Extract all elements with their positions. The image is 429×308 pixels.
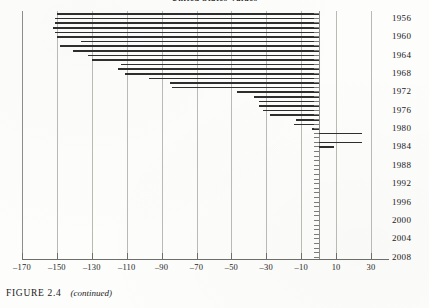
gridline--70 <box>197 11 198 259</box>
minor-year-tick <box>314 59 319 60</box>
gridline--170 <box>22 11 23 259</box>
minor-year-tick <box>314 73 319 74</box>
minor-year-tick <box>314 101 319 102</box>
minor-year-tick <box>314 179 319 180</box>
figure-continued-note: (continued) <box>71 288 112 298</box>
y-label-1976: 1976 <box>392 105 411 115</box>
minor-year-tick <box>314 13 319 14</box>
gridline--150 <box>57 11 58 259</box>
minor-year-tick <box>314 133 319 134</box>
minor-year-tick <box>314 105 319 106</box>
y-label-1992: 1992 <box>392 178 411 188</box>
figure-container: United States Values –170–150–130–110–90… <box>0 0 429 308</box>
figure-number: FIGURE 2.4 <box>6 288 62 298</box>
minor-year-tick <box>314 160 319 161</box>
x-tick-label--50: –50 <box>225 262 238 272</box>
bar-1956 <box>55 18 318 20</box>
x-tick-label--150: –150 <box>48 262 66 272</box>
bar-1976 <box>263 110 319 112</box>
x-tick-label--110: –110 <box>118 262 136 272</box>
y-label-1996: 1996 <box>392 197 411 207</box>
x-tick--170 <box>22 253 23 260</box>
bar-1963 <box>73 50 319 52</box>
bar-1966 <box>121 64 318 66</box>
bar-1981 <box>319 133 363 135</box>
minor-year-tick <box>314 82 319 83</box>
x-tick-10 <box>336 253 337 260</box>
y-label-1980: 1980 <box>392 123 411 133</box>
minor-year-tick <box>314 114 319 115</box>
x-axis-baseline <box>22 259 389 260</box>
minor-year-tick <box>314 78 319 79</box>
x-tick--10 <box>301 253 302 260</box>
x-tick-label--70: –70 <box>190 262 203 272</box>
minor-year-tick <box>314 243 319 244</box>
x-tick--130 <box>92 253 93 260</box>
bar-1983 <box>319 142 363 144</box>
bar-1965 <box>92 59 319 61</box>
y-label-1972: 1972 <box>392 86 411 96</box>
bar-1971 <box>172 87 319 89</box>
gridline--130 <box>92 11 93 259</box>
gridline--90 <box>162 11 163 259</box>
bar-1973 <box>254 96 319 98</box>
bar-1975 <box>259 105 318 107</box>
minor-year-tick <box>314 96 319 97</box>
bar-1959 <box>55 32 318 34</box>
y-label-1988: 1988 <box>392 160 411 170</box>
gridline--30 <box>266 11 267 259</box>
minor-year-tick <box>314 45 319 46</box>
bar-1957 <box>55 22 318 24</box>
minor-year-tick <box>314 91 319 92</box>
minor-year-tick <box>314 18 319 19</box>
minor-year-tick <box>314 27 319 28</box>
y-label-1956: 1956 <box>392 13 411 23</box>
minor-year-tick <box>314 215 319 216</box>
minor-year-tick <box>314 202 319 203</box>
y-label-1964: 1964 <box>392 50 411 60</box>
x-tick--110 <box>127 253 128 260</box>
x-tick-label--90: –90 <box>155 262 168 272</box>
minor-year-tick <box>314 257 319 258</box>
bar-1970 <box>170 82 318 84</box>
bar-1955 <box>57 13 319 15</box>
y-axis-year-labels: 1956196019641968197219761980198419881992… <box>392 0 429 308</box>
x-tick--50 <box>231 253 232 260</box>
x-tick-label-30: 30 <box>367 262 376 272</box>
y-label-2000: 2000 <box>392 215 411 225</box>
x-tick-label--30: –30 <box>260 262 273 272</box>
x-tick--70 <box>197 253 198 260</box>
minor-year-tick <box>314 22 319 23</box>
minor-year-tick <box>314 174 319 175</box>
x-tick--90 <box>162 253 163 260</box>
gridline-zero <box>319 11 320 259</box>
minor-year-tick <box>314 165 319 166</box>
gridline-10 <box>336 11 337 259</box>
minor-year-tick <box>314 41 319 42</box>
x-tick-label--10: –10 <box>295 262 308 272</box>
minor-year-tick <box>314 188 319 189</box>
bar-1961 <box>81 41 318 43</box>
y-label-2008: 2008 <box>392 252 411 262</box>
minor-year-tick <box>314 137 319 138</box>
x-tick--30 <box>266 253 267 260</box>
minor-year-tick <box>314 64 319 65</box>
minor-year-tick <box>314 183 319 184</box>
minor-year-tick <box>314 151 319 152</box>
minor-year-tick <box>314 169 319 170</box>
minor-year-tick <box>314 252 319 253</box>
gridline--10 <box>301 11 302 259</box>
x-tick--150 <box>57 253 58 260</box>
bar-1984 <box>319 146 335 148</box>
minor-year-tick <box>314 110 319 111</box>
gridline-30 <box>371 11 372 259</box>
minor-year-tick <box>314 146 319 147</box>
minor-year-tick <box>314 225 319 226</box>
bar-1974 <box>259 101 318 103</box>
bar-1964 <box>88 55 318 57</box>
minor-year-tick <box>314 220 319 221</box>
minor-year-tick <box>314 229 319 230</box>
minor-year-tick <box>314 142 319 143</box>
bar-1967 <box>118 68 319 70</box>
minor-year-tick <box>314 197 319 198</box>
